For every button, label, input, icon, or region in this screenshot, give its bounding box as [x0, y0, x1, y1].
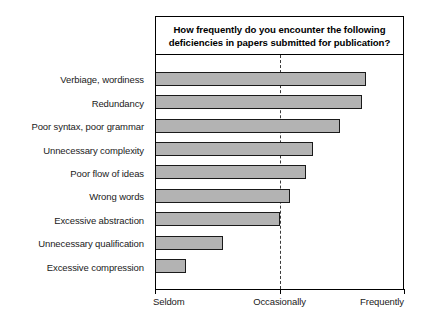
x-tick-label-occasionally: Occasionally [253, 296, 306, 307]
x-tick-label-seldom: Seldom [153, 296, 185, 307]
bar-row [156, 184, 403, 207]
chart-frame: How frequently do you encounter the foll… [155, 16, 404, 290]
x-tick-seldom [155, 289, 156, 294]
chart-title-line-1: How frequently do you encounter the foll… [173, 23, 385, 36]
category-label: Redundancy [0, 91, 150, 114]
category-label: Wrong words [0, 185, 150, 208]
category-axis-labels: Verbiage, wordiness Redundancy Poor synt… [0, 68, 150, 279]
bar-excessive-compression [156, 259, 186, 273]
category-label: Poor flow of ideas [0, 162, 150, 185]
category-label: Unnecessary complexity [0, 138, 150, 161]
chart-title-line-2: deficiencies in papers submitted for pub… [169, 36, 390, 49]
bar-row [156, 208, 403, 231]
bar-row [156, 161, 403, 184]
bar-row [156, 114, 403, 137]
bar-row [156, 231, 403, 254]
bar-poor-flow-of-ideas [156, 165, 306, 179]
category-label: Excessive abstraction [0, 209, 150, 232]
bar-verbiage-wordiness [156, 72, 366, 86]
bar-chart: Verbiage, wordiness Redundancy Poor synt… [0, 0, 443, 322]
bar-row [156, 90, 403, 113]
category-label: Verbiage, wordiness [0, 68, 150, 91]
bar-redundancy [156, 95, 362, 109]
category-label: Unnecessary qualification [0, 232, 150, 255]
bar-unnecessary-complexity [156, 142, 313, 156]
bars-container [156, 67, 403, 278]
bar-excessive-abstraction [156, 212, 280, 226]
bar-wrong-words [156, 189, 290, 203]
category-label: Poor syntax, poor grammar [0, 115, 150, 138]
x-tick-occasionally [280, 289, 281, 294]
bar-poor-syntax-poor-grammar [156, 119, 340, 133]
x-tick-frequently [404, 289, 405, 294]
bar-row [156, 137, 403, 160]
x-axis: Seldom Occasionally Frequently [155, 289, 404, 290]
bar-unnecessary-qualification [156, 236, 223, 250]
x-tick-label-frequently: Frequently [360, 296, 404, 307]
bar-row [156, 67, 403, 90]
chart-title: How frequently do you encounter the foll… [156, 17, 403, 55]
plot-area [156, 55, 403, 289]
category-label: Excessive compression [0, 256, 150, 279]
bar-row [156, 255, 403, 278]
